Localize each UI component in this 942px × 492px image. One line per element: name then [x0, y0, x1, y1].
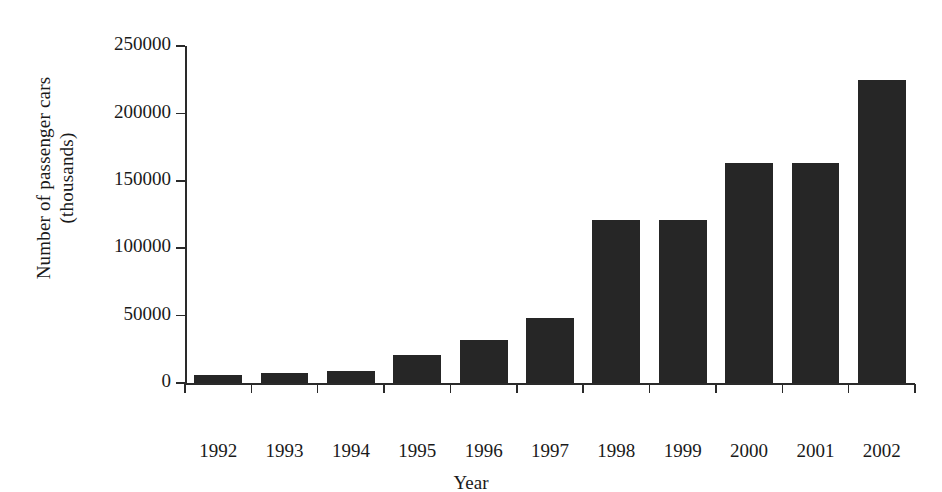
y-tick-label: 200000 — [114, 101, 171, 123]
x-tick — [383, 384, 385, 393]
y-tick-150000: 150000 — [176, 180, 185, 182]
x-tick — [914, 384, 916, 393]
x-tick — [450, 384, 452, 393]
bar-1992 — [194, 375, 242, 383]
x-axis-line — [185, 383, 915, 385]
x-tick — [649, 384, 651, 393]
bar-1999 — [659, 220, 707, 383]
x-tick-label-2002: 2002 — [849, 440, 915, 462]
y-tick-250000: 250000 — [176, 45, 185, 47]
x-tick-label-1995: 1995 — [384, 440, 450, 462]
y-tick-label: 0 — [162, 370, 172, 392]
y-axis-title: Number of passenger cars (thousands) — [32, 28, 78, 328]
x-tick-label-1994: 1994 — [318, 440, 384, 462]
y-axis-line — [185, 46, 187, 384]
y-axis-title-line-1: Number of passenger cars — [32, 28, 55, 328]
x-tick — [715, 384, 717, 393]
x-tick — [516, 384, 518, 393]
x-tick-label-2000: 2000 — [716, 440, 782, 462]
y-tick-label: 150000 — [114, 168, 171, 190]
y-tick-label: 100000 — [114, 235, 171, 257]
bar-1993 — [261, 373, 309, 383]
bar-1997 — [526, 318, 574, 383]
x-tick-label-1999: 1999 — [650, 440, 716, 462]
bar-1995 — [393, 355, 441, 383]
x-tick — [848, 384, 850, 393]
y-tick-100000: 100000 — [176, 247, 185, 249]
bar-1994 — [327, 371, 375, 383]
x-tick — [582, 384, 584, 393]
x-tick-label-1992: 1992 — [185, 440, 251, 462]
y-tick-label: 250000 — [114, 33, 171, 55]
y-tick-50000: 50000 — [176, 315, 185, 317]
x-tick-label-2001: 2001 — [782, 440, 848, 462]
bar-1996 — [460, 340, 508, 383]
bar-2000 — [725, 163, 773, 383]
y-tick-label: 50000 — [124, 303, 172, 325]
bar-1998 — [592, 220, 640, 383]
bar-2001 — [792, 163, 840, 383]
x-axis-title: Year — [0, 472, 942, 492]
x-tick-label-1997: 1997 — [517, 440, 583, 462]
x-tick — [251, 384, 253, 393]
y-axis-title-line-2: (thousands) — [55, 28, 78, 328]
x-tick — [184, 384, 186, 393]
x-tick-label-1993: 1993 — [251, 440, 317, 462]
x-tick — [317, 384, 319, 393]
bar-2002 — [858, 80, 906, 383]
x-tick-label-1998: 1998 — [583, 440, 649, 462]
x-tick-label-1996: 1996 — [450, 440, 516, 462]
y-tick-200000: 200000 — [176, 113, 185, 115]
x-tick — [782, 384, 784, 393]
bar-chart: Number of passenger cars (thousands) 050… — [0, 0, 942, 492]
plot-area: 050000100000150000200000250000 — [185, 40, 915, 384]
